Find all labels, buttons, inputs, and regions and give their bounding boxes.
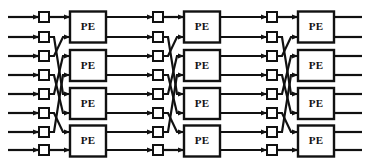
- pe-label-s1-0: PE: [81, 20, 96, 32]
- switch-node-s2-r6[interactable]: [153, 127, 163, 137]
- switch-node-s3-r7[interactable]: [267, 145, 277, 155]
- switch-node-s3-r2[interactable]: [267, 51, 277, 61]
- switch-node-s1-r5[interactable]: [39, 108, 49, 118]
- pe-label-s1-2: PE: [81, 97, 96, 109]
- wire-perm-s3-r5: [277, 113, 298, 132]
- network-diagram: PEPEPEPEPEPEPEPEPEPEPEPE: [0, 0, 369, 158]
- switch-node-s1-r7[interactable]: [39, 145, 49, 155]
- switch-node-s2-r4[interactable]: [153, 89, 163, 99]
- pe-label-s2-1: PE: [195, 59, 210, 71]
- switch-node-s2-r3[interactable]: [153, 70, 163, 80]
- switch-node-s1-r3[interactable]: [39, 70, 49, 80]
- pe-label-s2-2: PE: [195, 97, 210, 109]
- wire-perm-s2-r2: [163, 37, 184, 56]
- pe-label-s3-3: PE: [309, 134, 324, 146]
- switch-node-s2-r2[interactable]: [153, 51, 163, 61]
- wire-perm-s2-r5: [163, 113, 184, 132]
- wire-perm-s1-r2: [49, 37, 70, 56]
- pe-label-s2-0: PE: [195, 20, 210, 32]
- switch-node-s3-r0[interactable]: [267, 12, 277, 22]
- switch-node-s1-r1[interactable]: [39, 32, 49, 42]
- switch-node-s1-r0[interactable]: [39, 12, 49, 22]
- pe-label-s1-1: PE: [81, 59, 96, 71]
- switch-node-s3-r4[interactable]: [267, 89, 277, 99]
- pe-label-s3-1: PE: [309, 59, 324, 71]
- wire-perm-s3-r2: [277, 37, 298, 56]
- pe-label-s2-3: PE: [195, 134, 210, 146]
- switch-node-s2-r0[interactable]: [153, 12, 163, 22]
- switch-node-s2-r5[interactable]: [153, 108, 163, 118]
- wire-perm-s1-r5: [49, 113, 70, 132]
- switch-node-s2-r7[interactable]: [153, 145, 163, 155]
- pe-layer: PEPEPEPEPEPEPEPEPEPEPEPE: [70, 12, 334, 157]
- switch-node-s3-r5[interactable]: [267, 108, 277, 118]
- pe-label-s3-0: PE: [309, 20, 324, 32]
- network-svg: PEPEPEPEPEPEPEPEPEPEPEPE: [0, 0, 369, 158]
- switch-node-s3-r3[interactable]: [267, 70, 277, 80]
- pe-label-s3-2: PE: [309, 97, 324, 109]
- switch-node-s1-r2[interactable]: [39, 51, 49, 61]
- pe-label-s1-3: PE: [81, 134, 96, 146]
- switch-node-s3-r6[interactable]: [267, 127, 277, 137]
- switch-node-s2-r1[interactable]: [153, 32, 163, 42]
- switch-node-s3-r1[interactable]: [267, 32, 277, 42]
- switch-node-s1-r6[interactable]: [39, 127, 49, 137]
- switch-node-s1-r4[interactable]: [39, 89, 49, 99]
